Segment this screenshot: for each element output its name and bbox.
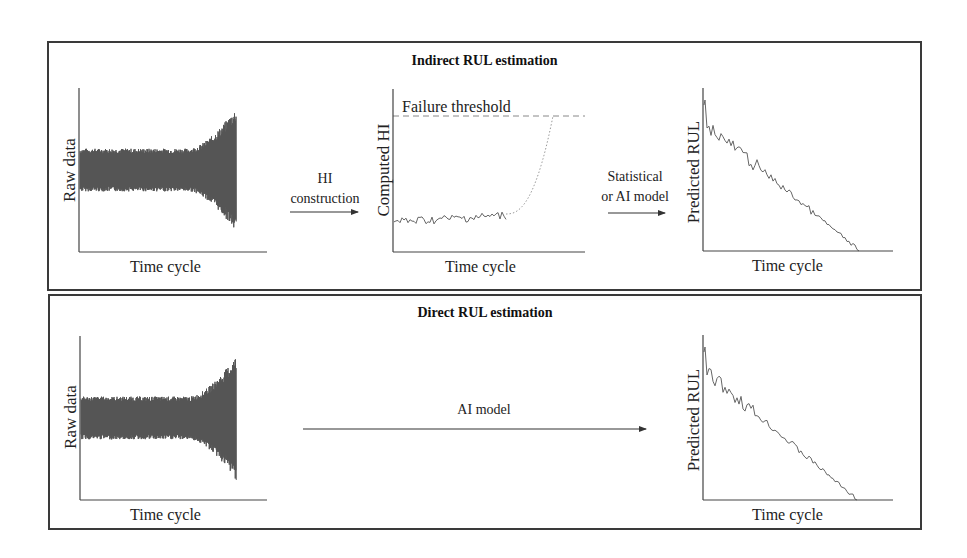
indirect-raw-data-plot [79, 88, 267, 252]
indirect-predicted-rul-plot [703, 88, 893, 251]
indirect-raw-signal [80, 113, 236, 227]
direct-rul-ylabel: Predicted RUL [684, 355, 704, 485]
indirect-rul-xlabel: Time cycle [752, 257, 823, 275]
failure-threshold-label: Failure threshold [402, 98, 511, 116]
indirect-rul-ylabel: Predicted RUL [684, 107, 704, 237]
diagram-graphics [0, 0, 967, 558]
rul-curve [704, 347, 857, 500]
indirect-raw-ylabel: Raw data [60, 125, 80, 215]
direct-rul-xlabel: Time cycle [752, 506, 823, 524]
direct-raw-ylabel: Raw data [61, 372, 81, 462]
direct-raw-signal [81, 359, 236, 480]
statistical-model-label-line2: or AI model [590, 189, 680, 205]
rul-curve [704, 100, 859, 251]
hi-construction-label-line1: HI [280, 171, 370, 187]
computed-hi-xlabel: Time cycle [445, 258, 516, 276]
direct-predicted-rul-plot [703, 335, 893, 500]
hi-curve-projected [506, 116, 553, 214]
computed-hi-ylabel: Computed HI [374, 110, 394, 230]
indirect-raw-xlabel: Time cycle [130, 258, 201, 276]
hi-curve-observed [394, 212, 506, 224]
ai-model-label: AI model [434, 402, 534, 418]
direct-raw-data-plot [80, 336, 267, 500]
direct-raw-xlabel: Time cycle [130, 506, 201, 524]
hi-construction-label-line2: construction [280, 191, 370, 207]
statistical-model-label-line1: Statistical [590, 169, 680, 185]
